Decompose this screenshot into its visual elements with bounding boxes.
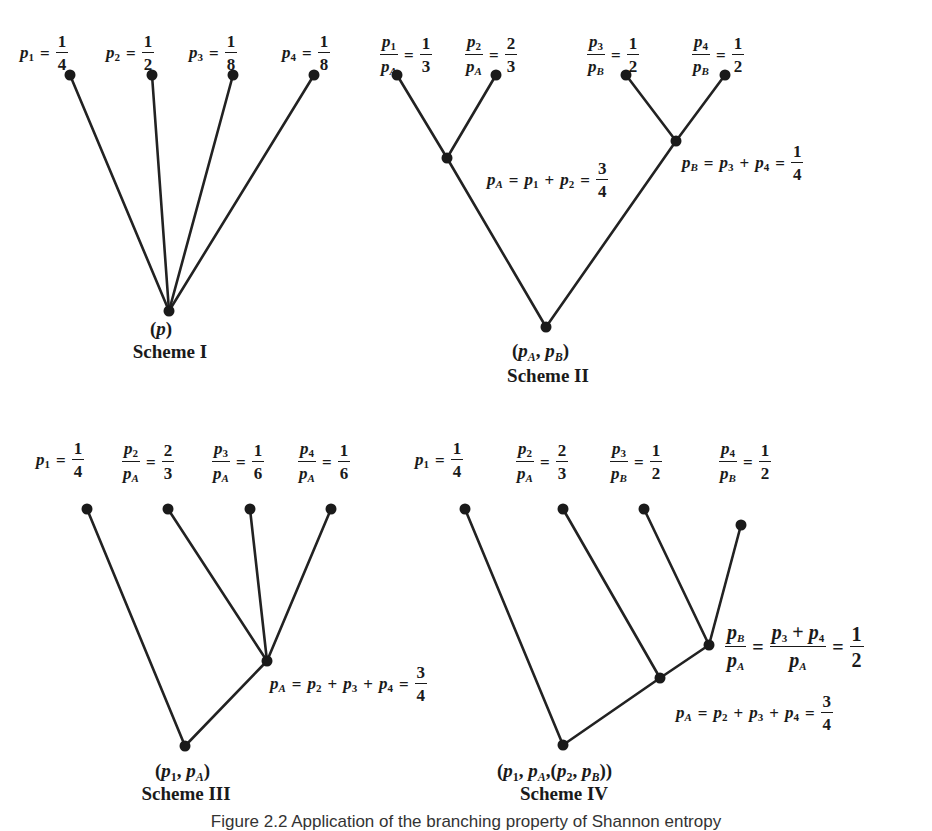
scheme-4-node-a-label: pA= p2+ p3+ p4= 34 <box>676 693 833 733</box>
scheme-3-tree <box>82 504 337 752</box>
scheme-4-leaf-3-label: p3pB = 12 <box>610 440 662 484</box>
scheme-2-node-b <box>671 136 682 147</box>
scheme-2-leaf-3-label: p3pB = 12 <box>587 33 639 77</box>
scheme-3-leaf-4 <box>326 504 337 515</box>
scheme-2-tree <box>392 70 731 333</box>
scheme-3-leaf-1-label: p1= 14 <box>36 440 84 480</box>
scheme-3-root <box>180 741 191 752</box>
scheme-4-leaf-2-label: p2pA = 23 <box>516 440 568 484</box>
scheme-4-node-a <box>655 673 666 684</box>
scheme-4-leaf-4-label: p4pB = 12 <box>719 440 771 484</box>
scheme-1-leaf-3-label: p3= 18 <box>189 33 237 73</box>
scheme-4-root-label: (p1, pA,(p2, pB)) <box>497 760 612 785</box>
scheme-2-root <box>541 322 552 333</box>
scheme-2-title: Scheme II <box>496 365 600 387</box>
scheme-1-tree <box>65 70 320 317</box>
scheme-1-title: Scheme I <box>118 341 222 363</box>
scheme-3-leaf-3-label: p3pA = 16 <box>212 440 264 484</box>
scheme-3-leaf-1 <box>82 504 93 515</box>
scheme-4-leaf-2 <box>558 504 569 515</box>
scheme-1-root <box>164 306 175 317</box>
scheme-2-node-a-label: pA= p1+ p2= 34 <box>487 160 608 200</box>
scheme-3-title: Scheme III <box>128 783 244 805</box>
scheme-3-root-label: (p1, pA) <box>155 760 210 785</box>
scheme-4-root <box>558 740 569 751</box>
scheme-4-leaf-3 <box>639 504 650 515</box>
scheme-3-leaf-4-label: p4pA = 16 <box>298 440 350 484</box>
scheme-4-title: Scheme IV <box>506 783 622 805</box>
scheme-1-leaf-4-label: p4= 18 <box>282 33 330 73</box>
figure-caption: Figure 2.2 Application of the branching … <box>0 812 932 831</box>
scheme-2-leaf-2-label: p2pA = 23 <box>465 33 517 77</box>
scheme-3-node-a-label: pA= p2+ p3+ p4= 34 <box>270 664 427 704</box>
scheme-3-leaf-3 <box>245 504 256 515</box>
scheme-2-leaf-1-label: p1pA = 13 <box>380 33 432 77</box>
scheme-4-leaf-4 <box>736 520 747 531</box>
scheme-2-leaf-4-label: p4pB = 12 <box>692 33 744 77</box>
scheme-4-node-b <box>704 640 715 651</box>
scheme-2-node-a <box>442 153 453 164</box>
scheme-3-leaf-2-label: p2pA = 23 <box>122 440 174 484</box>
scheme-2-root-label: (pA, pB) <box>512 340 569 365</box>
scheme-2-node-b-label: pB= p3+ p4= 14 <box>682 143 803 183</box>
scheme-4-leaf-1 <box>460 504 471 515</box>
scheme-1-leaf-1-label: p1= 14 <box>20 33 68 73</box>
scheme-1-leaf-2-label: p2= 12 <box>106 33 154 73</box>
scheme-1-root-label: (p) <box>150 318 172 340</box>
scheme-4-leaf-1-label: p1= 14 <box>415 440 463 480</box>
scheme-3-leaf-2 <box>163 504 174 515</box>
scheme-4-node-b-label: pBpA = p3 + p4pA = 12 <box>725 622 864 672</box>
